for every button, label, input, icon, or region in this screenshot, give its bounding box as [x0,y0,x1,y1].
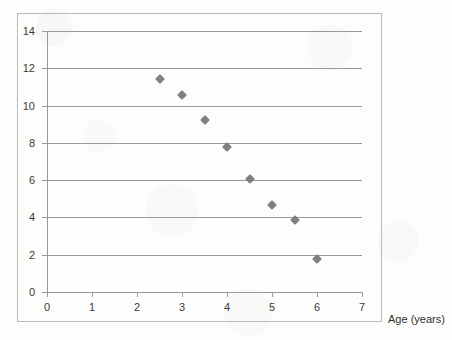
y-tick-label-10: 10 [13,101,35,112]
y-tick-label-8: 8 [13,138,35,149]
data-point [245,174,255,184]
gridline-y-14 [47,31,362,32]
x-tick-label-0: 0 [35,302,59,313]
x-tick-7 [362,292,363,297]
y-tick-14 [42,31,47,32]
y-tick-label-14: 14 [13,26,35,37]
x-tick-label-4: 4 [215,302,239,313]
chart-canvas: 02468101214 01234567 Age (years) [0,0,452,340]
gridline-y-10 [47,106,362,107]
x-axis-title: Age (years) [388,313,445,325]
gridline-y-4 [47,217,362,218]
y-tick-10 [42,106,47,107]
data-point [155,74,165,84]
x-tick-label-3: 3 [170,302,194,313]
x-tick-label-2: 2 [125,302,149,313]
x-tick-6 [317,292,318,297]
x-tick-1 [92,292,93,297]
y-tick-label-12: 12 [13,63,35,74]
x-tick-label-6: 6 [305,302,329,313]
y-tick-4 [42,217,47,218]
y-tick-2 [42,255,47,256]
gridline-y-6 [47,180,362,181]
y-tick-12 [42,68,47,69]
y-tick-label-0: 0 [13,287,35,298]
x-tick-0 [47,292,48,297]
y-tick-6 [42,180,47,181]
data-point [177,90,187,100]
x-tick-label-7: 7 [350,302,374,313]
x-tick-label-1: 1 [80,302,104,313]
plot-area [47,31,362,292]
data-point [267,200,277,210]
x-tick-5 [272,292,273,297]
gridline-y-12 [47,68,362,69]
data-point [200,116,210,126]
y-tick-label-6: 6 [13,175,35,186]
x-tick-label-5: 5 [260,302,284,313]
x-tick-4 [227,292,228,297]
x-tick-3 [182,292,183,297]
y-tick-label-2: 2 [13,250,35,261]
gridline-y-8 [47,143,362,144]
y-tick-label-4: 4 [13,212,35,223]
y-tick-8 [42,143,47,144]
x-tick-2 [137,292,138,297]
gridline-y-0 [47,292,362,293]
